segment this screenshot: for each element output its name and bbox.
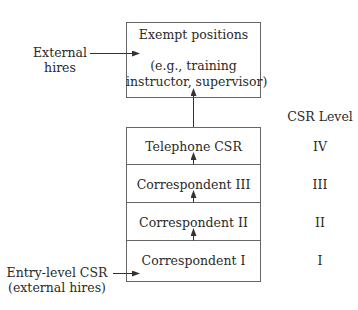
csr-level-iv: IV xyxy=(280,139,358,154)
external-hires-label-line1: External xyxy=(30,45,90,60)
entry-level-label-line2: (external hires) xyxy=(2,280,112,295)
exempt-positions-example-line2: instructor, supervisor) xyxy=(126,74,261,89)
csr-level-i: I xyxy=(280,253,358,268)
csr-level-header: CSR Level xyxy=(280,109,358,124)
exempt-positions-example-line1: (e.g., training xyxy=(126,58,261,73)
ladder-position-correspondent-i: Correspondent I xyxy=(126,253,261,268)
csr-level-iii: III xyxy=(280,177,358,192)
ladder-position-correspondent-ii: Correspondent II xyxy=(126,215,261,230)
csr-level-ii: II xyxy=(280,215,358,230)
entry-level-label-line1: Entry-level CSR xyxy=(2,265,112,280)
ladder-position-telephone-csr: Telephone CSR xyxy=(126,139,261,154)
external-hires-label-line2: hires xyxy=(30,60,90,75)
ladder-position-correspondent-iii: Correspondent III xyxy=(126,177,261,192)
exempt-positions-title: Exempt positions xyxy=(126,27,261,42)
